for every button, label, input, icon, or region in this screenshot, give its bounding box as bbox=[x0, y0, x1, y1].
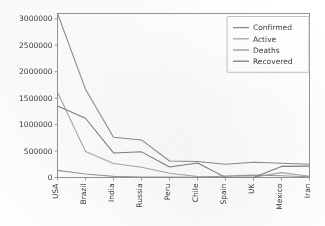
x-axis-tick-label: USA bbox=[51, 183, 60, 199]
legend-label-active: Active bbox=[253, 35, 277, 44]
y-axis-tick-label: 0 bbox=[48, 173, 53, 182]
y-axis-tick-label: 500000 bbox=[24, 147, 53, 156]
x-axis-tick-label: India bbox=[107, 184, 116, 202]
x-axis-tick-label: Iran bbox=[303, 183, 312, 198]
y-axis-tick-label: 1000000 bbox=[19, 120, 53, 129]
legend-label-recovered: Recovered bbox=[253, 57, 293, 66]
x-axis-tick-label: Chile bbox=[191, 183, 200, 202]
x-axis-tick-label: UK bbox=[247, 182, 256, 193]
y-axis-tick-label: 2500000 bbox=[19, 41, 53, 50]
chart-legend: ConfirmedActiveDeathsRecovered bbox=[227, 17, 309, 73]
legend-label-confirmed: Confirmed bbox=[253, 23, 292, 32]
legend-label-deaths: Deaths bbox=[253, 46, 280, 55]
x-axis-tick-label: Russia bbox=[135, 184, 144, 208]
x-axis-tick-label: Mexico bbox=[275, 183, 284, 210]
y-axis-tick-label: 3000000 bbox=[19, 14, 53, 23]
x-axis-tick-label: Spain bbox=[219, 183, 228, 204]
chart-canvas: 0500000100000015000002000000250000030000… bbox=[0, 0, 325, 226]
y-axis-tick-label: 2000000 bbox=[19, 67, 53, 76]
line-chart-figure: 0500000100000015000002000000250000030000… bbox=[0, 0, 325, 226]
x-axis-tick-label: Peru bbox=[163, 183, 172, 200]
y-axis-tick-label: 1500000 bbox=[19, 94, 53, 103]
x-axis-tick-label: Brazil bbox=[79, 184, 88, 205]
